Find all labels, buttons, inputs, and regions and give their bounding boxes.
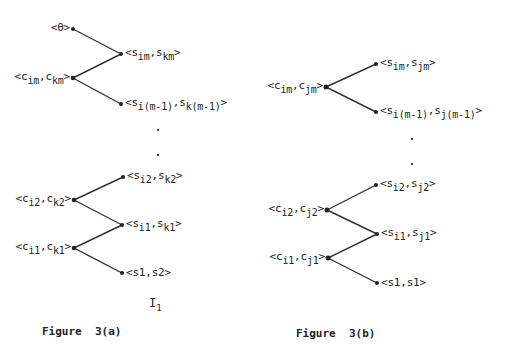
label-part: >	[174, 46, 180, 59]
label-sub: i2	[28, 197, 40, 208]
label-part: ,s	[428, 104, 441, 117]
label-sub: k1	[53, 245, 65, 256]
label-sub: i1	[282, 255, 294, 266]
label-part: >	[317, 79, 323, 92]
node-s-m-minus-1: <si(m-1),sj(m-1)>	[380, 105, 482, 117]
node-s-2: <si2,sk2>	[127, 170, 182, 182]
label-sub: j2	[417, 182, 429, 193]
figure-caption-a: Figure 3(a)	[42, 325, 121, 338]
label-sub: i1	[28, 245, 40, 256]
label-part: >	[429, 177, 435, 190]
label-sub: k2	[164, 174, 176, 185]
node-label: <s1,s1>	[381, 276, 426, 289]
label-part: ,c	[293, 202, 306, 215]
label-part: <c	[16, 240, 29, 253]
node-c-2: <ci2,cj2>	[269, 203, 324, 215]
label-part: ,s	[405, 56, 418, 69]
label-part: ,c	[40, 192, 53, 205]
node-c-m: <cim,ckm>	[15, 71, 70, 83]
node-c-1: <ci1,ck1>	[16, 241, 71, 253]
label-sub: i2	[393, 182, 405, 193]
label-sub: k(m-1)	[186, 101, 221, 112]
label-part: <c	[15, 70, 28, 83]
label-sub: im	[280, 84, 292, 95]
label-sub: im	[393, 61, 405, 72]
tag-sub: 1	[156, 303, 161, 313]
label-sub: j(m-1)	[441, 109, 476, 120]
label-sub: i(m-1)	[138, 101, 173, 112]
node-label: <θ>	[51, 21, 70, 34]
node-leaf: <s1,s2>	[126, 267, 171, 279]
node-s-m: <sim,sjm>	[380, 57, 435, 69]
label-sub: im	[138, 51, 150, 62]
label-sub: km	[162, 51, 174, 62]
label-part: <s	[380, 56, 393, 69]
label-sub: i2	[140, 174, 152, 185]
label-part: <c	[268, 79, 281, 92]
label-part: <s	[125, 96, 138, 109]
figure-caption-b: Figure 3(b)	[296, 327, 375, 340]
label-sub: km	[52, 75, 64, 86]
node-s-1: <si1,sj1>	[381, 227, 436, 239]
label-sub: jm	[417, 61, 429, 72]
label-sub: i2	[281, 207, 293, 218]
label-part: ,s	[405, 177, 418, 190]
label-part: <c	[269, 202, 282, 215]
label-part: >	[221, 96, 227, 109]
label-part: <c	[16, 192, 29, 205]
label-part: <s	[381, 226, 394, 239]
node-s-m: <sim,skm>	[125, 47, 180, 59]
node-c-1: <ci1,cj1>	[270, 251, 325, 263]
label-part: ,s	[406, 226, 419, 239]
label-part: >	[65, 240, 71, 253]
label-part: >	[176, 169, 182, 182]
node-leaf: <s1,s1>	[381, 277, 426, 289]
label-part: ,s	[173, 96, 186, 109]
label-part: >	[319, 250, 325, 263]
label-sub: im	[27, 75, 39, 86]
node-s-m-minus-1: <si(m-1),sk(m-1)>	[125, 97, 227, 109]
label-part: ,c	[40, 240, 53, 253]
label-part: >	[430, 226, 436, 239]
label-sub: i1	[394, 231, 406, 242]
label-sub: j1	[418, 231, 430, 242]
label-part: ,c	[39, 70, 52, 83]
label-part: ,c	[292, 79, 305, 92]
label-part: <s	[380, 104, 393, 117]
label-sub: j2	[306, 207, 318, 218]
interval-tag: I1	[149, 296, 162, 310]
label-part: ,s	[150, 46, 163, 59]
label-part: <s	[127, 169, 140, 182]
label-part: >	[429, 56, 435, 69]
node-c-2: <ci2,ck2>	[16, 193, 71, 205]
label-sub: j1	[307, 255, 319, 266]
node-s-2: <si2,sj2>	[380, 178, 435, 190]
label-sub: k1	[163, 222, 175, 233]
label-part: ,s	[152, 169, 165, 182]
node-c-m: <cim,cjm>	[268, 80, 323, 92]
label-sub: i(m-1)	[393, 109, 428, 120]
label-sub: jm	[305, 84, 317, 95]
label-part: >	[64, 70, 70, 83]
label-part: <c	[270, 250, 283, 263]
label-sub: i1	[139, 222, 151, 233]
label-part: >	[65, 192, 71, 205]
label-part: <s	[125, 46, 138, 59]
label-part: <s	[126, 217, 139, 230]
node-label: <s1,s2>	[126, 266, 171, 279]
node-theta: <θ>	[51, 22, 70, 34]
label-part: >	[318, 202, 324, 215]
label-part: ,s	[151, 217, 164, 230]
label-part: >	[175, 217, 181, 230]
label-part: <s	[380, 177, 393, 190]
diagram-edges	[0, 0, 525, 356]
node-s-1: <si1,sk1>	[126, 218, 181, 230]
label-part: >	[476, 104, 482, 117]
label-sub: k2	[53, 197, 65, 208]
label-part: ,c	[294, 250, 307, 263]
